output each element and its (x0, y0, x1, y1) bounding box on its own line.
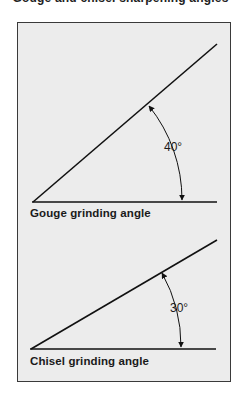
chisel-bevel-line (31, 240, 217, 349)
angle-diagrams (0, 0, 241, 396)
gouge-diagram (32, 44, 217, 202)
gouge-angle-label: 40° (164, 140, 182, 154)
chisel-diagram (30, 240, 217, 349)
gouge-bevel-line (33, 44, 217, 202)
chisel-angle-label: 30° (170, 301, 188, 315)
chisel-caption: Chisel grinding angle (30, 355, 149, 367)
gouge-caption: Gouge grinding angle (30, 207, 151, 219)
